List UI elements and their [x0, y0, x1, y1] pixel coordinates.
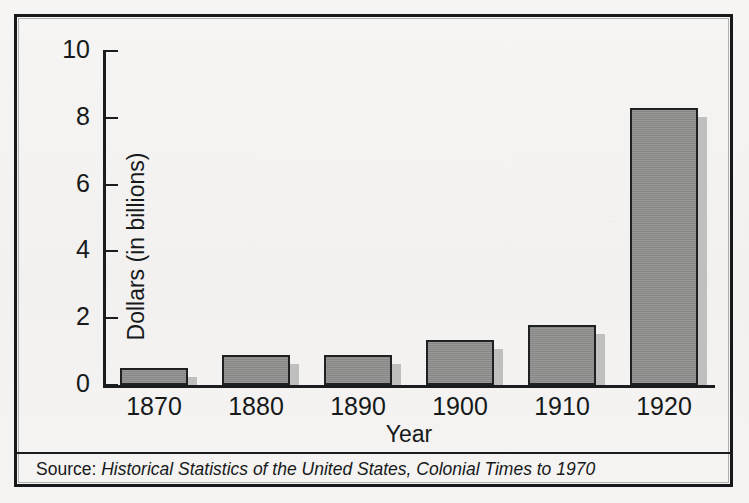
y-tick-label: 0 [30, 369, 90, 398]
y-tick-mark [103, 317, 118, 319]
y-tick-label: 2 [30, 302, 90, 331]
y-tick-mark [103, 250, 118, 252]
y-axis-line [103, 51, 106, 388]
bar [528, 325, 596, 385]
x-axis-line [103, 385, 715, 388]
y-tick-label: 4 [30, 235, 90, 264]
source-divider [17, 452, 730, 454]
y-tick-label: 6 [30, 169, 90, 198]
bar [120, 368, 188, 385]
source-label: Source: [36, 459, 96, 479]
bar [426, 340, 494, 385]
y-tick-mark [103, 384, 118, 386]
source-title: Historical Statistics of the United Stat… [101, 459, 595, 479]
source-note: Source: Historical Statistics of the Uni… [36, 459, 595, 480]
x-axis-title: Year [103, 421, 715, 448]
bar [222, 355, 290, 385]
x-tick-label: 1920 [604, 392, 724, 421]
y-tick-label: 8 [30, 102, 90, 131]
chart-page: 0246810 Dollars (in billions) 1870188018… [0, 0, 749, 503]
y-tick-mark [103, 50, 118, 52]
bar [630, 108, 698, 385]
y-tick-mark [103, 117, 118, 119]
y-axis-title: Dollars (in billions) [123, 82, 150, 412]
y-tick-label: 10 [30, 35, 90, 64]
y-tick-mark [103, 184, 118, 186]
bar [324, 355, 392, 385]
